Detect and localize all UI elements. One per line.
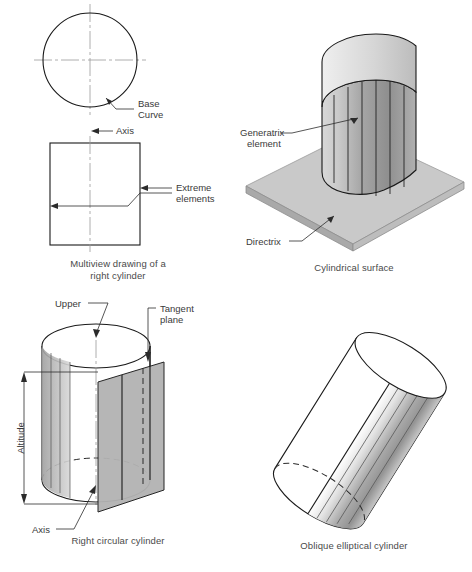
caption-right-circular-cylinder: Right circular cylinder [0, 535, 236, 547]
caption-multiview: Multiview drawing of a right cylinder [0, 258, 236, 282]
extreme-arrowhead-left [50, 203, 58, 209]
extreme-elements-label-line1: Extreme [176, 182, 211, 193]
tangent-plane-label-line2: plane [160, 314, 183, 325]
cylindrical-surface-svg: Generatrix element Directrix [236, 0, 472, 290]
caption-multiview-line2: right cylinder [0, 270, 236, 282]
upper-label: Upper [55, 298, 81, 309]
cylindrical-surface-body [322, 80, 416, 194]
base-curve-label-line1: Base [138, 98, 160, 109]
altitude-arrow-bottom [21, 494, 27, 504]
tangent-plane [98, 362, 164, 512]
base-curve-label-line2: Curve [138, 109, 163, 120]
extreme-elements-label-line2: elements [176, 193, 215, 204]
caption-cylsurf-line1: Cylindrical surface [236, 262, 472, 274]
multiview-drawing-svg: Base Curve Axis Extreme elements [0, 0, 236, 290]
directrix-label: Directrix [246, 236, 281, 247]
extreme-arrowhead-right [140, 185, 148, 191]
caption-oblique-elliptical-cylinder: Oblique elliptical cylinder [236, 540, 472, 552]
caption-multiview-line1: Multiview drawing of a [0, 258, 236, 270]
caption-rightcyl-line1: Right circular cylinder [0, 535, 236, 547]
generatrix-label-line2: element [247, 138, 281, 149]
panel-multiview-drawing: Base Curve Axis Extreme elements Multivi… [0, 0, 236, 290]
cylinder-shade-left [42, 346, 70, 498]
altitude-arrow-top [21, 372, 27, 382]
figure-board: Base Curve Axis Extreme elements Multivi… [0, 0, 472, 572]
generatrix-label-line1: Generatrix [240, 127, 285, 138]
axis-label: Axis [116, 125, 134, 136]
extreme-leader-left [57, 193, 172, 206]
caption-obliquecyl-line1: Oblique elliptical cylinder [236, 540, 472, 552]
axis-arrowhead [91, 128, 99, 134]
axis-leader-diagonal [74, 490, 94, 529]
base-curve-leader [106, 98, 134, 109]
caption-cylindrical-surface: Cylindrical surface [236, 262, 472, 274]
axis-arrowhead-rightcyl [89, 485, 96, 494]
axis-label-rightcyl: Axis [32, 524, 50, 535]
front-view-rectangle [50, 143, 140, 245]
tangent-plane-label-line1: Tangent [160, 303, 194, 314]
right-circular-cylinder-svg: Altitude Upper Tangent plane Axis [0, 290, 236, 572]
panel-right-circular-cylinder: Altitude Upper Tangent plane Axis Right … [0, 290, 236, 572]
panel-oblique-elliptical-cylinder: Oblique elliptical cylinder [236, 290, 472, 572]
altitude-label: Altitude [15, 422, 26, 454]
panel-cylindrical-surface: Generatrix element Directrix Cylindrical… [236, 0, 472, 290]
oblique-elliptical-cylinder-svg [236, 290, 472, 572]
